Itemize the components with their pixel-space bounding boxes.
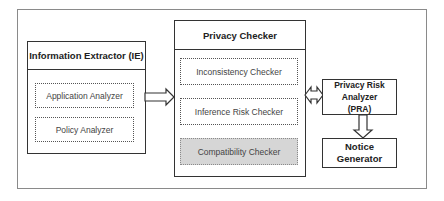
- compatibility-checker-box: Compatibility Checker: [180, 138, 298, 165]
- pra-title-line2: (PRA): [348, 103, 372, 115]
- privacy-checker-box: Privacy Checker Inconsistency Checker In…: [174, 20, 306, 177]
- policy-analyzer-box: Policy Analyzer: [35, 117, 134, 142]
- double-arrow-checker-pra-icon: [305, 86, 323, 104]
- privacy-risk-analyzer-box: Privacy Risk Analyzer (PRA): [322, 79, 397, 115]
- notice-generator-box: Notice Generator: [322, 138, 397, 168]
- privacy-checker-title: Privacy Checker: [175, 21, 305, 50]
- information-extractor-title: Information Extractor (IE): [28, 42, 145, 70]
- inference-risk-checker-box: Inference Risk Checker: [180, 98, 298, 125]
- pra-title-line1: Privacy Risk Analyzer: [323, 79, 396, 103]
- arrow-pra-to-notice-icon: [352, 115, 376, 139]
- application-analyzer-box: Application Analyzer: [35, 83, 134, 108]
- arrow-ie-to-checker-icon: [145, 88, 175, 106]
- inconsistency-checker-box: Inconsistency Checker: [180, 58, 298, 85]
- information-extractor-box: Information Extractor (IE) Application A…: [27, 41, 146, 154]
